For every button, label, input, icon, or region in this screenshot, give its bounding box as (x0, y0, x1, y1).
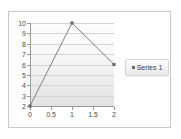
y-tick-label: 9 (12, 30, 26, 37)
square-marker-icon (132, 66, 135, 69)
y-tick-label: 8 (12, 41, 26, 48)
data-point-marker[interactable] (28, 104, 31, 107)
y-tick-label: 7 (12, 51, 26, 58)
x-tick-label: 0.5 (41, 111, 61, 118)
x-tick-label: 1.5 (83, 111, 103, 118)
x-tick-mark (114, 107, 115, 110)
y-tick-label: 3 (12, 93, 26, 100)
y-tick-label: 5 (12, 72, 26, 79)
chart-legend[interactable]: Series 1 (125, 59, 169, 76)
series-line-group (30, 23, 114, 106)
y-tick-label: 4 (12, 82, 26, 89)
data-point-marker[interactable] (112, 63, 115, 66)
x-tick-label: 2 (104, 111, 124, 118)
y-tick-label: 2 (12, 103, 26, 110)
x-tick-mark (51, 107, 52, 110)
y-tick-label: 6 (12, 62, 26, 69)
legend-item-label: Series 1 (137, 64, 163, 72)
x-tick-label: 0 (20, 111, 40, 118)
chart-screenshot: 2345678910 00.511.52 Series 1 (0, 0, 181, 139)
x-tick-mark (93, 107, 94, 110)
chart-card[interactable]: 2345678910 00.511.52 Series 1 (8, 11, 171, 128)
x-tick-label: 1 (62, 111, 82, 118)
y-tick-label: 10 (12, 20, 26, 27)
plot-wrapper: 2345678910 00.511.52 Series 1 (9, 12, 172, 129)
x-tick-mark (72, 107, 73, 110)
series-line (30, 23, 114, 106)
data-point-marker[interactable] (70, 21, 73, 24)
